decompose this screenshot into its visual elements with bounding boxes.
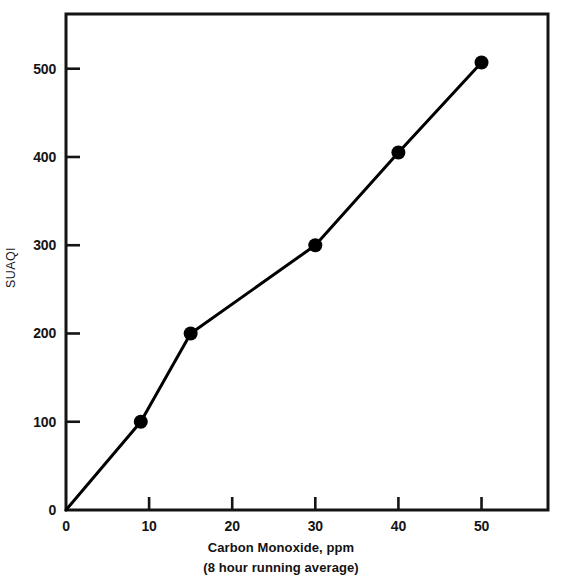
x-axis-tick-label: 50	[474, 518, 489, 534]
x-axis-tick-label: 20	[225, 518, 240, 534]
y-axis-tick-label: 400	[8, 149, 56, 165]
line-chart-canvas	[0, 0, 562, 582]
x-axis-tick-label: 30	[308, 518, 323, 534]
x-axis-tick-label: 40	[391, 518, 406, 534]
chart-container: 0100200300400500 01020304050 SUAQI Carbo…	[0, 0, 562, 582]
y-axis-tick-label: 100	[8, 414, 56, 430]
x-axis-title: Carbon Monoxide, ppm	[0, 540, 562, 555]
y-axis-tick-label: 0	[8, 502, 56, 518]
y-axis-title: SUAQI	[4, 247, 18, 288]
x-axis-tick-label: 0	[62, 518, 70, 534]
data-point-marker	[308, 238, 322, 252]
data-point-marker	[184, 326, 198, 340]
data-point-marker	[134, 415, 148, 429]
y-axis-tick-label: 500	[8, 61, 56, 77]
y-axis-tick-label: 200	[8, 325, 56, 341]
data-point-marker	[475, 56, 489, 70]
x-axis-tick-label: 10	[142, 518, 157, 534]
data-point-marker	[391, 146, 405, 160]
plot-frame	[66, 14, 548, 510]
x-axis-title-subtitle: (8 hour running average)	[0, 560, 562, 575]
